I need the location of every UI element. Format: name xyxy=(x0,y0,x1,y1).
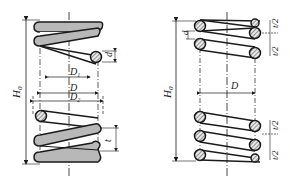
wire-d-label: d xyxy=(103,51,114,57)
half-pitch-label-2: t/2 xyxy=(270,46,280,56)
spring-diagrams: H0 D1 D D2 d t xyxy=(0,0,290,180)
left-spring-figure: H0 D1 D D2 d t xyxy=(10,12,119,178)
wire-d-label-right: d xyxy=(180,30,190,35)
d-mean-label-right: D xyxy=(230,80,239,91)
d1-label: D1 xyxy=(69,66,80,78)
right-coil-sections xyxy=(195,19,261,162)
half-pitch-label-3: t/2 xyxy=(270,120,280,130)
right-spring-figure: H0 d D t/2 t/2 t/2 t/2 xyxy=(161,12,280,178)
pitch-t-label: t xyxy=(102,139,113,142)
left-top-coils xyxy=(34,22,103,64)
wire-section-bottom xyxy=(36,111,47,122)
half-pitch-label-1: t/2 xyxy=(270,18,280,28)
half-pitch-label-4: t/2 xyxy=(270,150,280,160)
wire-section-top xyxy=(91,52,102,63)
left-bottom-coils xyxy=(34,111,101,163)
h0-label-right: H0 xyxy=(161,86,175,99)
h0-label: H0 xyxy=(10,86,24,99)
